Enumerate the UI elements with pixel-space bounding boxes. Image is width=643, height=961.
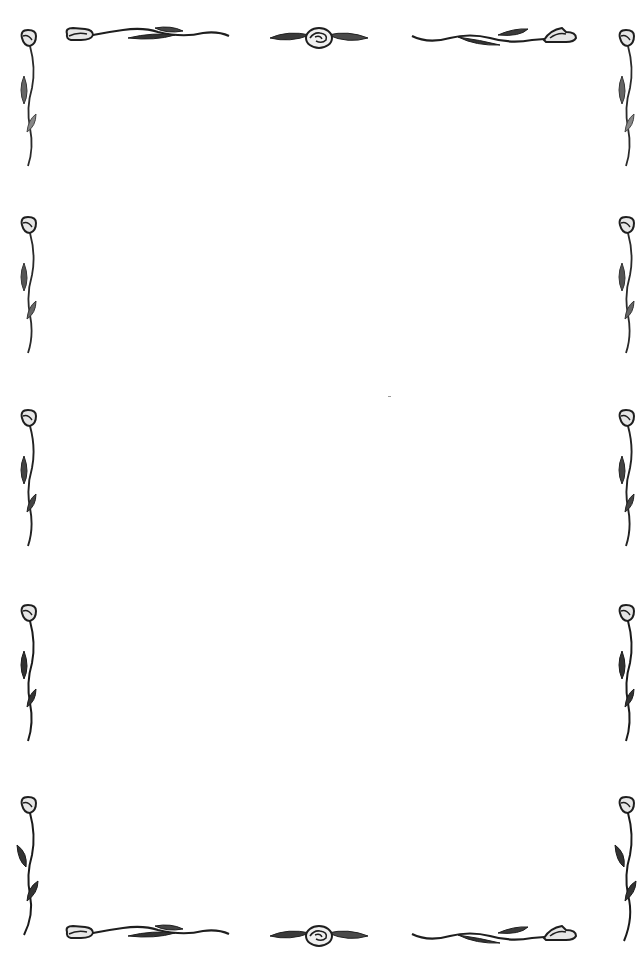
rose-bud-vine-icon: [63, 920, 231, 946]
rose-with-leaves-icon: [268, 26, 370, 50]
rose-stem-icon: [14, 408, 40, 548]
right-rose-stem-2: [612, 215, 638, 355]
rose-bud-vine-icon: [410, 22, 580, 48]
left-rose-stem-3: [14, 408, 40, 548]
bottom-right-vine: [410, 920, 580, 946]
rose-stem-icon: [612, 215, 638, 355]
writing-area: [60, 70, 583, 910]
top-left-vine: [63, 22, 231, 48]
top-center-rose: [268, 26, 370, 50]
right-rose-stem-4: [612, 603, 638, 743]
left-rose-stem-2: [14, 215, 40, 355]
rose-with-leaves-icon: [268, 924, 370, 948]
rose-stem-icon: [612, 28, 638, 168]
right-rose-stem-3: [612, 408, 638, 548]
rose-stem-icon: [608, 795, 638, 943]
bottom-left-vine: [63, 920, 231, 946]
left-rose-stem-1: [14, 28, 40, 168]
top-right-vine: [410, 22, 580, 48]
left-rose-stem-4: [14, 603, 40, 743]
bottom-center-rose: [268, 924, 370, 948]
rose-stem-icon: [14, 215, 40, 355]
right-rose-stem-5: [608, 795, 638, 943]
rose-bud-vine-icon: [63, 22, 231, 48]
rose-stem-icon: [14, 28, 40, 168]
stationery-page: [0, 0, 643, 961]
left-rose-stem-5: [14, 795, 40, 935]
rose-stem-icon: [612, 408, 638, 548]
rose-stem-icon: [14, 795, 40, 935]
right-rose-stem-1: [612, 28, 638, 168]
rose-stem-icon: [612, 603, 638, 743]
rose-stem-icon: [14, 603, 40, 743]
rose-bud-vine-icon: [410, 920, 580, 946]
